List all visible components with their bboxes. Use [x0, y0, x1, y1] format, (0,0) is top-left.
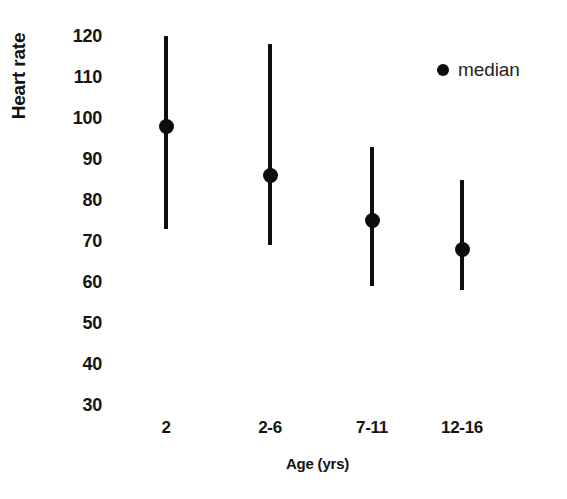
error-bar-range-line: [460, 180, 464, 291]
x-tick-label: 12-16: [402, 418, 522, 438]
error-bar-range-line: [268, 44, 272, 245]
median-marker: [263, 168, 278, 183]
chart-legend: median: [437, 60, 520, 79]
x-tick-label: 2: [106, 418, 226, 438]
chart-figure: Heart rate 12011010090807060504030 22-67…: [0, 0, 567, 499]
x-axis-title: Age (yrs): [0, 455, 567, 472]
median-marker: [159, 119, 174, 134]
legend-median-marker-icon: [437, 64, 449, 76]
median-marker: [365, 213, 380, 228]
median-marker: [455, 242, 470, 257]
legend-median-label: median: [458, 60, 520, 79]
